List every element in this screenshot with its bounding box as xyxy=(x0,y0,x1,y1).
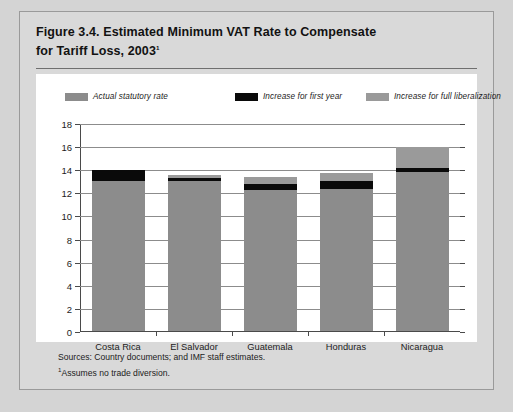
legend-label: Increase for full liberalization xyxy=(394,92,501,101)
y-axis-tick xyxy=(460,147,465,148)
note-assumes-text: Assumes no trade diversion. xyxy=(61,367,169,377)
bar-segment xyxy=(320,189,373,331)
legend-entry: Increase for full liberalization xyxy=(366,92,501,101)
x-axis-line xyxy=(80,331,460,332)
figure-title-line2: for Tariff Loss, 2003 xyxy=(36,44,156,58)
gridline xyxy=(80,124,460,125)
x-axis-label: El Salvador xyxy=(156,342,232,352)
y-axis-tick xyxy=(460,124,465,125)
y-axis-tick-label: 14 xyxy=(32,165,72,176)
bar-segment xyxy=(320,173,373,181)
x-axis-tick xyxy=(384,332,385,336)
legend-entry: Increase for first year xyxy=(235,92,342,101)
bar-stack xyxy=(168,175,221,331)
y-axis-tick xyxy=(75,332,80,333)
bar-segment xyxy=(396,168,449,172)
y-axis-tick-label: 16 xyxy=(32,142,72,153)
x-axis-label: Guatemala xyxy=(232,342,308,352)
bar-segment xyxy=(320,181,373,189)
figure-panel: Figure 3.4. Estimated Minimum VAT Rate t… xyxy=(19,11,494,390)
legend-label: Actual statutory rate xyxy=(93,92,168,101)
y-axis-tick-label: 8 xyxy=(32,234,72,245)
y-axis-tick xyxy=(75,147,80,148)
bar-segment xyxy=(168,175,221,178)
bar-segment xyxy=(244,190,297,331)
y-axis-tick xyxy=(460,216,465,217)
plot-area: 024681012141618 Costa RicaEl SalvadorGua… xyxy=(80,124,460,332)
y-axis-tick-label: 12 xyxy=(32,188,72,199)
x-axis-label: Costa Rica xyxy=(80,342,156,352)
figure-title: Figure 3.4. Estimated Minimum VAT Rate t… xyxy=(36,24,466,59)
bar-stack xyxy=(244,177,297,331)
y-axis-tick xyxy=(460,193,465,194)
bar-segment xyxy=(396,147,449,167)
y-axis-tick xyxy=(75,170,80,171)
note-sources: Sources: Country documents; and IMF staf… xyxy=(58,352,468,364)
x-axis-label: Honduras xyxy=(308,342,384,352)
legend-label: Increase for first year xyxy=(263,92,342,101)
bar-stack xyxy=(92,170,145,331)
y-axis-tick xyxy=(460,309,465,310)
bar-segment xyxy=(92,181,145,331)
legend-swatch xyxy=(366,93,389,101)
y-axis-tick-label: 10 xyxy=(32,211,72,222)
x-axis-tick xyxy=(232,332,233,336)
bar-segment xyxy=(244,177,297,183)
x-axis-label: Nicaragua xyxy=(384,342,460,352)
title-divider xyxy=(36,68,477,69)
y-axis-tick xyxy=(75,124,80,125)
bar-segment xyxy=(168,178,221,181)
y-axis-tick xyxy=(75,240,80,241)
figure-title-line1: Figure 3.4. Estimated Minimum VAT Rate t… xyxy=(36,25,376,39)
y-axis-tick xyxy=(460,263,465,264)
chart-container: Actual statutory rateIncrease for first … xyxy=(36,74,477,342)
figure-notes: Sources: Country documents; and IMF staf… xyxy=(58,352,468,379)
y-axis-tick-label: 0 xyxy=(32,327,72,338)
bar-segment xyxy=(244,184,297,190)
y-axis-tick xyxy=(75,263,80,264)
y-axis-tick xyxy=(75,309,80,310)
bar-segment xyxy=(168,181,221,331)
figure-title-footnote-marker: 1 xyxy=(156,44,160,51)
y-axis-tick-label: 4 xyxy=(32,280,72,291)
legend-entry: Actual statutory rate xyxy=(65,92,168,101)
bar-stack xyxy=(396,147,449,331)
y-axis-line xyxy=(80,124,81,332)
y-axis-tick xyxy=(460,332,465,333)
y-axis-tick xyxy=(75,193,80,194)
bar-segment xyxy=(396,172,449,331)
chart-legend: Actual statutory rateIncrease for first … xyxy=(36,92,477,108)
y-axis-tick-label: 6 xyxy=(32,257,72,268)
y-axis-tick xyxy=(460,286,465,287)
x-axis-tick xyxy=(156,332,157,336)
y-axis-tick-label: 2 xyxy=(32,303,72,314)
bar-segment xyxy=(92,170,145,180)
legend-swatch xyxy=(235,93,258,101)
legend-swatch xyxy=(65,93,88,101)
y-axis-tick xyxy=(75,216,80,217)
note-assumes: 1Assumes no trade diversion. xyxy=(58,364,468,379)
y-axis-tick-label: 18 xyxy=(32,119,72,130)
y-axis-tick xyxy=(75,286,80,287)
x-axis-tick xyxy=(308,332,309,336)
bar-stack xyxy=(320,173,373,331)
y-axis-tick xyxy=(460,170,465,171)
y-axis-tick xyxy=(460,240,465,241)
